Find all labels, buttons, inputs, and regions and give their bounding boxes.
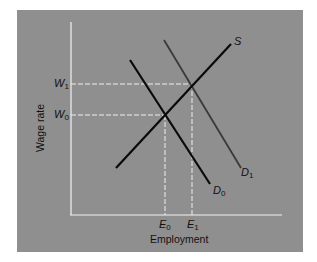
d1-label: D1: [241, 167, 253, 180]
e1-tick-label: E1: [187, 219, 199, 232]
w1-tick-label: W1: [54, 78, 69, 91]
supply-label: S: [234, 36, 241, 47]
y-axis-title: Wage rate: [35, 104, 46, 152]
d0-label: D0: [213, 185, 225, 198]
w0-tick-label: W0: [54, 109, 69, 122]
supply-curve: [116, 44, 231, 168]
x-axis-title: Employment: [150, 234, 208, 245]
e0-tick-label: E0: [159, 219, 171, 232]
